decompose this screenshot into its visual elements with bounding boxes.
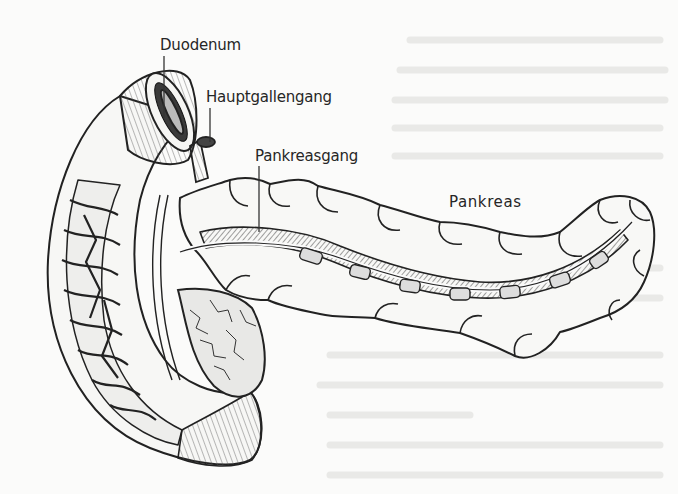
pancreas-head-shape	[178, 289, 265, 397]
label-duodenum: Duodenum	[160, 36, 241, 54]
label-hauptgallengang: Hauptgallengang	[206, 88, 332, 106]
label-pankreasgang: Pankreasgang	[255, 147, 358, 165]
illustration	[0, 0, 678, 494]
label-pankreas: Pankreas	[449, 193, 522, 211]
bile-duct-shape	[190, 137, 215, 182]
anatomy-diagram: Duodenum Hauptgallengang Pankreasgang Pa…	[0, 0, 678, 494]
